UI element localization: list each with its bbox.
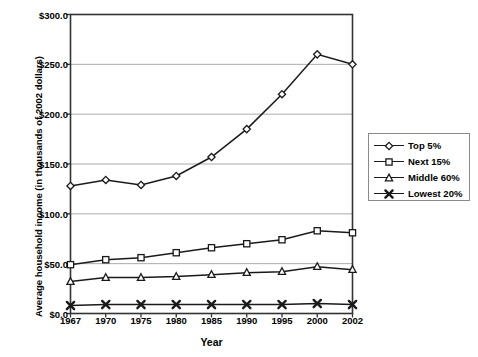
marker-triangle [349,266,356,273]
marker-triangle [243,269,250,276]
marker-square [67,262,73,268]
x-tick-label: 1980 [166,315,187,326]
marker-triangle [173,273,180,280]
y-tick-label: $100.0 [18,208,68,219]
marker-square [386,158,392,164]
marker-triangle [385,174,392,181]
legend-label: Next 15% [404,156,450,167]
marker-triangle [278,268,285,275]
marker-square [208,245,214,251]
series-2 [67,228,355,268]
x-tick-label: 1970 [95,315,116,326]
legend-label: Middle 60% [404,172,460,183]
legend: Top 5%Next 15%Middle 60%Lowest 20% [368,133,470,201]
y-tick-label: $50.0 [18,258,68,269]
series-4 [67,300,356,309]
marker-diamond [349,61,356,68]
marker-diamond [102,176,109,183]
y-tick-label: $250.0 [18,59,68,70]
legend-label: Lowest 20% [404,188,462,199]
series-line [71,54,353,186]
legend-marker-diamond-icon [374,139,404,153]
marker-square [314,228,320,234]
x-tick-label: 1975 [130,315,151,326]
legend-marker-x-icon [374,187,404,201]
legend-item-4[interactable]: Lowest 20% [374,185,462,202]
x-tick-label: 1967 [60,315,81,326]
series-3 [67,263,356,285]
x-tick-label: 1995 [271,315,292,326]
x-axis-title: Year [70,336,353,348]
legend-label: Top 5% [404,140,441,151]
marker-square [244,241,250,247]
marker-diamond [137,181,144,188]
marker-diamond [385,142,392,149]
x-tick-label: 1985 [201,315,222,326]
series-1 [67,51,356,190]
legend-item-1[interactable]: Top 5% [374,137,441,154]
marker-x [385,190,392,197]
legend-marker-triangle-icon [374,171,404,185]
y-tick-label: $300.0 [18,9,68,20]
marker-triangle [102,274,109,281]
x-tick-label: 2000 [307,315,328,326]
marker-diamond [173,172,180,179]
marker-triangle [137,274,144,281]
marker-triangle [208,271,215,278]
legend-marker-square-icon [374,155,404,169]
y-tick-label: $200.0 [18,109,68,120]
line-chart: Average household income (in thousands o… [0,0,478,357]
x-tick-label: 1990 [236,315,257,326]
marker-square [138,255,144,261]
y-axis-tick-labels: $0.0$50.0$100.0$150.0$200.0$250.0$300.0 [12,0,68,357]
marker-square [279,237,285,243]
legend-item-2[interactable]: Next 15% [374,153,450,170]
legend-item-3[interactable]: Middle 60% [374,169,460,186]
x-tick-label: 2002 [342,315,363,326]
y-tick-label: $150.0 [18,159,68,170]
marker-square [173,250,179,256]
marker-square [349,230,355,236]
marker-square [103,257,109,263]
